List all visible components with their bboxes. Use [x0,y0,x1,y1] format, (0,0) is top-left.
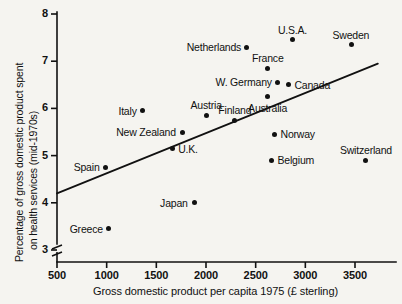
data-point-belgium [269,158,274,163]
point-label-sweden: Sweden [333,29,370,41]
point-label-w-germany: W. Germany [216,76,272,88]
x-tick-label-3500: 3500 [341,269,369,281]
y-tick-label-7: 7 [42,54,48,66]
point-label-japan: Japan [160,197,188,209]
x-tick-label-2500: 2500 [242,269,270,281]
data-point-sweden [349,42,354,47]
data-point-japan [192,200,197,205]
point-label-spain: Spain [74,161,100,173]
data-point-norway [272,132,277,137]
y-tick-label-8: 8 [42,7,48,19]
x-tick-label-2000: 2000 [192,269,220,281]
y-tick-label-4: 4 [42,196,48,208]
point-label-norway: Norway [281,128,315,140]
x-tick-label-3000: 3000 [291,269,319,281]
point-label-switzerland: Switzerland [340,144,392,156]
data-point-w-germany [275,80,280,85]
x-tick-label-1500: 1500 [142,269,170,281]
data-point-new-zealand [180,130,185,135]
y-tick-label-5: 5 [42,149,48,161]
point-label-greece: Greece [70,223,103,235]
data-point-u-k [170,146,175,151]
point-label-u-s-a: U.S.A. [278,24,307,36]
point-label-netherlands: Netherlands [187,41,241,53]
data-point-netherlands [244,45,249,50]
point-label-u-k: U.K. [178,143,198,155]
data-point-austria [204,113,209,118]
point-label-canada: Canada [294,79,330,91]
data-point-france [265,66,270,71]
point-label-new-zealand: New Zealand [116,126,176,138]
point-label-finland: Finland [218,104,251,116]
point-label-belgium: Belgium [278,154,315,166]
y-axis-title-line-2: on health services (mid-1970s) [27,111,39,250]
x-tick-label-500: 500 [43,269,71,281]
y-tick-label-3: 3 [42,243,48,255]
y-axis-title-line-1: Percentage of gross domestic product spe… [13,63,25,262]
point-label-france: France [252,52,283,64]
x-axis-title: Gross domestic product per capita 1975 (… [93,285,338,297]
point-label-italy: Italy [118,105,136,117]
point-label-australia: Australia [248,102,287,114]
x-tick-label-1000: 1000 [93,269,121,281]
y-tick-label-6: 6 [42,101,48,113]
point-label-austria: Austria [191,99,222,111]
